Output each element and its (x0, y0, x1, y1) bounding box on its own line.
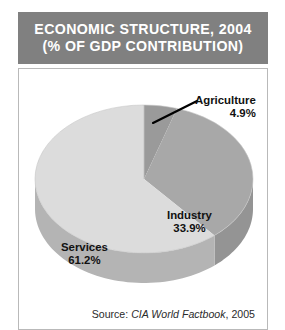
pie-label-agriculture-name: Agriculture (195, 94, 256, 106)
pie-label-industry: Industry 33.9% (167, 209, 212, 235)
source-prefix: Source: (92, 308, 131, 320)
pie-label-services: Services 61.2% (61, 241, 108, 267)
chart-title-banner: ECONOMIC STRUCTURE, 2004 (% OF GDP CONTR… (18, 12, 268, 64)
chart-panel: Agriculture 4.9% Industry 33.9% Services… (18, 68, 268, 330)
chart-title-line-1: ECONOMIC STRUCTURE, 2004 (34, 21, 251, 38)
source-suffix: , 2005 (226, 308, 255, 320)
pie-label-services-value: 61.2% (61, 254, 108, 267)
pie-label-services-name: Services (61, 241, 108, 253)
pie-label-industry-name: Industry (167, 209, 212, 221)
source-publication: CIA World Factbook (131, 308, 225, 320)
chart-title-line-2: (% OF GDP CONTRIBUTION) (43, 38, 244, 55)
pie-label-industry-value: 33.9% (167, 222, 212, 235)
pie-label-agriculture-value: 4.9% (195, 107, 256, 120)
pie-label-agriculture: Agriculture 4.9% (195, 94, 256, 120)
source-note: Source: CIA World Factbook, 2005 (92, 308, 255, 320)
